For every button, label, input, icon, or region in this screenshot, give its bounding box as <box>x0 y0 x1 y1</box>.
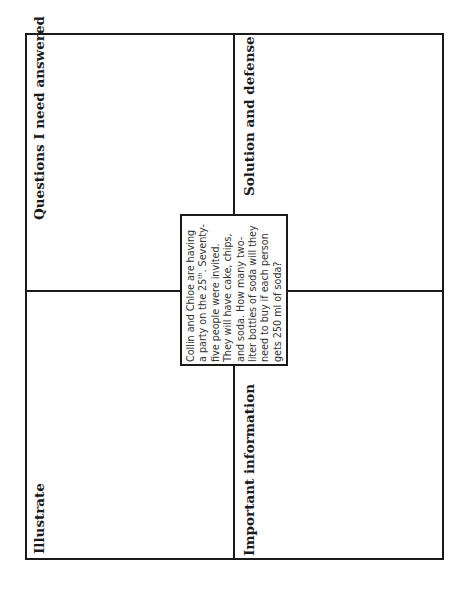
problem-line: gets 250 ml of soda? <box>272 218 284 362</box>
problem-line: and soda. How many two- <box>235 218 247 362</box>
solution-label: Solution and defense <box>240 36 258 196</box>
problem-line: five people were invited. <box>210 218 222 362</box>
problem-line: liter bottles of soda will they <box>247 218 259 362</box>
problem-line: a party on the 25th. Seventy- <box>197 218 209 362</box>
important-information-label: Important information <box>240 384 258 556</box>
word-problem-box: Collin and Chloe are having a party on t… <box>180 214 288 366</box>
word-problem-text: Collin and Chloe are having a party on t… <box>185 218 284 362</box>
problem-line: They will have cake, chips, <box>222 218 234 362</box>
questions-label: Questions I need answered <box>30 16 48 220</box>
problem-line: Collin and Chloe are having <box>185 218 197 362</box>
problem-line: need to buy if each person <box>259 218 271 362</box>
illustrate-label: Illustrate <box>30 483 48 554</box>
